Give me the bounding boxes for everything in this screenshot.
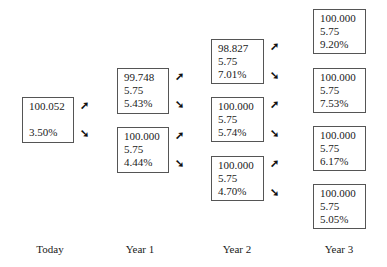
node-rate: 7.53%	[320, 97, 365, 110]
node-year1-down: 100.000 5.75 4.44%	[117, 127, 169, 173]
node-coupon: 5.75	[320, 84, 365, 97]
node-coupon: 5.75	[218, 55, 263, 68]
node-today: 100.052 3.50%	[22, 97, 74, 143]
node-coupon: 5.75	[218, 172, 263, 185]
arrow-up-icon: ➚	[270, 41, 279, 52]
node-value: 99.748	[124, 71, 168, 84]
arrow-up-icon: ➚	[270, 158, 279, 169]
node-rate: 4.44%	[124, 156, 168, 169]
node-rate: 5.74%	[218, 126, 263, 139]
arrow-down-icon: ➘	[175, 99, 184, 110]
arrow-down-icon: ➘	[80, 128, 89, 139]
arrow-up-icon: ➚	[270, 99, 279, 110]
node-year3-udd: 100.000 5.75 6.17%	[313, 126, 366, 171]
node-rate: 9.20%	[320, 38, 365, 51]
arrow-up-icon: ➚	[175, 130, 184, 141]
node-rate: 4.70%	[218, 185, 263, 198]
node-value: 100.000	[320, 129, 365, 142]
column-label-today: Today	[20, 243, 80, 255]
arrow-down-icon: ➘	[270, 187, 279, 198]
column-label-year3: Year 3	[309, 243, 369, 255]
node-rate: 3.50%	[29, 126, 73, 139]
node-value: 100.000	[218, 100, 263, 113]
node-rate: 5.05%	[320, 213, 365, 226]
node-value: 100.000	[124, 130, 168, 143]
arrow-down-icon: ➘	[270, 128, 279, 139]
node-coupon: 5.75	[124, 143, 168, 156]
node-year2-ud: 100.000 5.75 5.74%	[211, 97, 264, 142]
node-year3-uuu: 100.000 5.75 9.20%	[313, 9, 366, 54]
node-value: 98.827	[218, 42, 263, 55]
node-coupon: 5.75	[320, 200, 365, 213]
node-rate: 7.01%	[218, 68, 263, 81]
node-rate: 5.43%	[124, 97, 168, 110]
node-value: 100.000	[320, 187, 365, 200]
node-year3-uud: 100.000 5.75 7.53%	[313, 68, 366, 113]
node-year2-dd: 100.000 5.75 4.70%	[211, 156, 264, 201]
node-rate: 6.17%	[320, 155, 365, 168]
node-year2-uu: 98.827 5.75 7.01%	[211, 39, 264, 84]
node-coupon: 5.75	[320, 25, 365, 38]
node-coupon: 5.75	[124, 84, 168, 97]
column-label-year2: Year 2	[207, 243, 267, 255]
node-coupon	[29, 113, 73, 126]
node-year1-up: 99.748 5.75 5.43%	[117, 68, 169, 114]
arrow-up-icon: ➚	[80, 100, 89, 111]
column-label-year1: Year 1	[110, 243, 170, 255]
node-coupon: 5.75	[320, 142, 365, 155]
node-year3-ddd: 100.000 5.75 5.05%	[313, 184, 366, 229]
node-value: 100.000	[320, 12, 365, 25]
arrow-down-icon: ➘	[175, 158, 184, 169]
node-coupon: 5.75	[218, 113, 263, 126]
arrow-down-icon: ➘	[270, 70, 279, 81]
arrow-up-icon: ➚	[175, 71, 184, 82]
node-value: 100.052	[29, 100, 73, 113]
node-value: 100.000	[320, 71, 365, 84]
node-value: 100.000	[218, 159, 263, 172]
